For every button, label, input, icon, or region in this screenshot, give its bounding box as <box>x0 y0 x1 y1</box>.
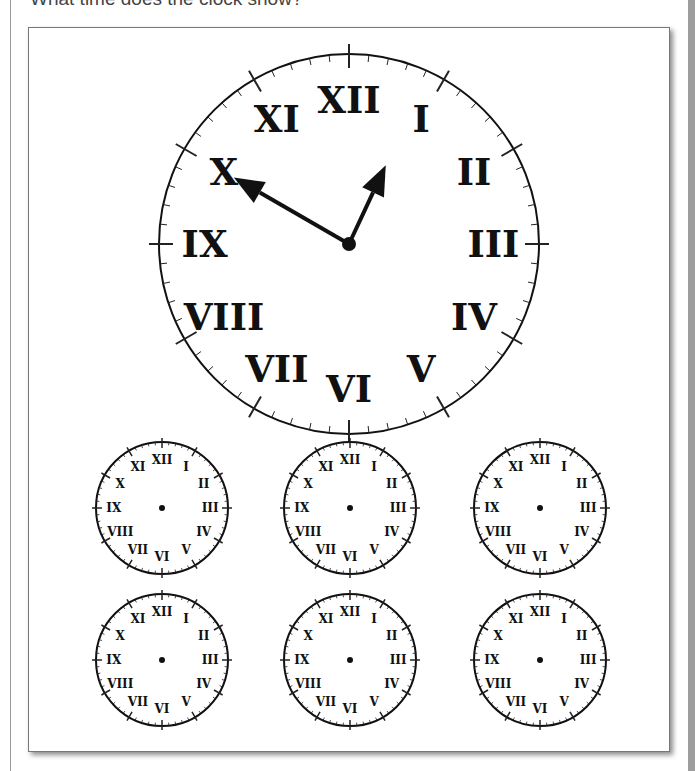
numeral-ix: IX <box>294 501 310 515</box>
numeral-v: V <box>368 695 379 709</box>
numeral-xi: XI <box>130 460 145 474</box>
numeral-vi: VI <box>532 702 548 716</box>
clocks-canvas: XIIIIIIIIIVVVIVIIVIIIIXXXIXIIIIIIIIIVVVI… <box>0 0 695 771</box>
center-pin-icon <box>347 657 353 663</box>
numeral-xi: XI <box>318 612 333 626</box>
numeral-iii: III <box>580 653 597 667</box>
numeral-iv: IV <box>574 525 590 539</box>
numeral-i: I <box>371 612 377 626</box>
numeral-vii: VII <box>505 695 527 709</box>
numeral-x: X <box>494 477 504 491</box>
numeral-x: X <box>116 477 126 491</box>
numeral-ix: IX <box>484 653 500 667</box>
numeral-x: X <box>210 150 239 194</box>
numeral-i: I <box>183 460 189 474</box>
numeral-iv: IV <box>384 525 400 539</box>
numeral-i: I <box>371 460 377 474</box>
numeral-iii: III <box>467 222 519 266</box>
numeral-ii: II <box>457 150 492 194</box>
numeral-v: V <box>180 543 191 557</box>
answer-clock-5[interactable]: XIIIIIIIIIVVVIVIIVIIIIXXXI <box>280 590 420 730</box>
numeral-x: X <box>304 477 314 491</box>
answer-clock-1[interactable]: XIIIIIIIIIVVVIVIIVIIIIXXXI <box>92 438 232 578</box>
numeral-iv: IV <box>574 677 590 691</box>
numeral-ii: II <box>576 629 588 643</box>
numeral-ii: II <box>198 629 210 643</box>
numeral-x: X <box>494 629 504 643</box>
numeral-i: I <box>561 460 567 474</box>
numeral-x: X <box>116 629 126 643</box>
numeral-xii: XII <box>317 78 380 122</box>
numeral-viii: VIII <box>183 295 265 339</box>
answer-clock-4[interactable]: XIIIIIIIIIVVVIVIIVIIIIXXXI <box>92 590 232 730</box>
numeral-iii: III <box>390 653 407 667</box>
numeral-ii: II <box>198 477 210 491</box>
numeral-i: I <box>413 97 430 141</box>
numeral-xii: XII <box>152 453 173 467</box>
numeral-iv: IV <box>196 677 212 691</box>
answer-clock-6[interactable]: XIIIIIIIIIVVVIVIIVIIIIXXXI <box>470 590 610 730</box>
numeral-ix: IX <box>182 222 228 266</box>
numeral-xii: XII <box>340 453 361 467</box>
numeral-iii: III <box>580 501 597 515</box>
numeral-vi: VI <box>154 702 170 716</box>
numeral-iii: III <box>202 653 219 667</box>
numeral-i: I <box>561 612 567 626</box>
numeral-vii: VII <box>315 695 337 709</box>
answer-clock-2[interactable]: XIIIIIIIIIVVVIVIIVIIIIXXXI <box>280 438 420 578</box>
numeral-viii: VIII <box>106 525 134 539</box>
center-pin-icon <box>537 505 543 511</box>
center-pin-icon <box>159 657 165 663</box>
center-pin-icon <box>347 505 353 511</box>
numeral-xi: XI <box>508 612 523 626</box>
numeral-vii: VII <box>505 543 527 557</box>
numeral-ii: II <box>576 477 588 491</box>
numeral-ix: IX <box>484 501 500 515</box>
numeral-v: V <box>368 543 379 557</box>
numeral-xi: XI <box>508 460 523 474</box>
numeral-xii: XII <box>340 605 361 619</box>
numeral-ix: IX <box>106 653 122 667</box>
numeral-vi: VI <box>532 550 548 564</box>
center-pin-icon <box>537 657 543 663</box>
numeral-viii: VIII <box>106 677 134 691</box>
numeral-x: X <box>304 629 314 643</box>
numeral-xi: XI <box>318 460 333 474</box>
numeral-v: V <box>558 695 569 709</box>
numeral-v: V <box>558 543 569 557</box>
numeral-ix: IX <box>106 501 122 515</box>
numeral-xi: XI <box>130 612 145 626</box>
numeral-vii: VII <box>315 543 337 557</box>
numeral-iii: III <box>202 501 219 515</box>
numeral-xii: XII <box>152 605 173 619</box>
numeral-ix: IX <box>294 653 310 667</box>
numeral-vi: VI <box>325 367 372 411</box>
numeral-vii: VII <box>127 695 149 709</box>
numeral-v: V <box>180 695 191 709</box>
numeral-v: V <box>406 347 437 391</box>
numeral-i: I <box>183 612 189 626</box>
numeral-viii: VIII <box>294 525 322 539</box>
numeral-viii: VIII <box>484 525 512 539</box>
main-clock: XIIIIIIIIIVVVIVIIVIIIIXXXI <box>149 44 549 444</box>
numeral-vii: VII <box>127 543 149 557</box>
numeral-vi: VI <box>342 550 358 564</box>
numeral-viii: VIII <box>294 677 322 691</box>
numeral-xi: XI <box>254 97 300 141</box>
numeral-xii: XII <box>530 605 551 619</box>
numeral-vi: VI <box>342 702 358 716</box>
numeral-iii: III <box>390 501 407 515</box>
numeral-iv: IV <box>384 677 400 691</box>
numeral-ii: II <box>386 477 398 491</box>
numeral-iv: IV <box>451 295 498 339</box>
answer-clock-3[interactable]: XIIIIIIIIIVVVIVIIVIIIIXXXI <box>470 438 610 578</box>
numeral-vi: VI <box>154 550 170 564</box>
numeral-iv: IV <box>196 525 212 539</box>
numeral-viii: VIII <box>484 677 512 691</box>
numeral-ii: II <box>386 629 398 643</box>
center-pin-icon <box>159 505 165 511</box>
numeral-vii: VII <box>244 347 308 391</box>
numeral-xii: XII <box>530 453 551 467</box>
